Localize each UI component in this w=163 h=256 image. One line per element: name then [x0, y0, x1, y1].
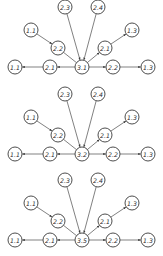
- node-label: 1.3: [127, 200, 137, 207]
- node-bottom-far-left: 1.1: [8, 233, 22, 247]
- network-diagram-2: 2.32.41.11.32.22.11.12.13.22.21.3: [8, 87, 155, 161]
- node-label: 2.1: [100, 45, 110, 52]
- node-bottom-far-right: 1.3: [141, 60, 155, 74]
- diagrams-root: 2.32.41.11.32.22.11.12.13.12.21.32.32.41…: [8, 0, 155, 247]
- node-upper-right: 1.3: [125, 110, 139, 124]
- node-label: 1.3: [143, 151, 153, 158]
- edge-top_right-to-center: [84, 101, 96, 147]
- node-label: 2.1: [100, 218, 110, 225]
- node-label: 2.3: [60, 4, 70, 11]
- node-bottom-left: 2.1: [43, 233, 57, 247]
- node-bottom-far-right: 1.3: [141, 147, 155, 161]
- node-mid-right: 2.1: [98, 128, 112, 142]
- node-label: 2.3: [60, 91, 70, 98]
- node-label: 2.1: [100, 132, 110, 139]
- node-label: 1.1: [26, 27, 36, 34]
- node-label: 1.3: [143, 237, 153, 244]
- node-center: 3.5: [75, 233, 89, 247]
- node-center: 3.2: [75, 147, 89, 161]
- edge-mid_right-to-upper_right: [111, 121, 126, 131]
- node-bottom-left: 2.1: [43, 147, 57, 161]
- edge-upper_left-to-mid_left: [37, 121, 52, 131]
- edge-mid_left-to-center: [63, 139, 76, 149]
- edge-center-to-mid_right: [87, 226, 99, 236]
- node-label: 2.2: [108, 237, 118, 244]
- node-label: 1.3: [127, 27, 137, 34]
- node-label: 2.1: [45, 237, 55, 244]
- node-label: 1.1: [26, 114, 36, 121]
- node-top-left: 2.3: [58, 0, 72, 14]
- node-label: 1.3: [127, 114, 137, 121]
- node-label: 1.3: [143, 64, 153, 71]
- node-label: 2.2: [53, 132, 63, 139]
- diagram-canvas: 2.32.41.11.32.22.11.12.13.12.21.32.32.41…: [0, 0, 163, 256]
- node-top-left: 2.3: [58, 173, 72, 187]
- node-top-left: 2.3: [58, 87, 72, 101]
- node-top-right: 2.4: [91, 0, 105, 14]
- node-label: 2.2: [108, 64, 118, 71]
- node-mid-right: 2.1: [98, 41, 112, 55]
- node-label: 3.2: [77, 151, 87, 158]
- edge-upper_left-to-mid_left: [37, 34, 52, 44]
- network-diagram-3: 2.32.41.11.32.22.11.12.13.52.21.3: [8, 173, 155, 247]
- node-bottom-left: 2.1: [43, 60, 57, 74]
- node-label: 1.1: [10, 151, 20, 158]
- node-bottom-right: 2.2: [106, 60, 120, 74]
- edge-mid_right-to-upper_right: [111, 207, 126, 217]
- node-bottom-far-left: 1.1: [8, 147, 22, 161]
- edge-center-to-mid_right: [87, 53, 99, 63]
- edge-center-to-mid_right: [87, 140, 99, 150]
- node-bottom-right: 2.2: [106, 147, 120, 161]
- node-label: 2.1: [45, 64, 55, 71]
- edge-top_right-to-center: [84, 187, 96, 233]
- node-label: 2.4: [93, 177, 103, 184]
- node-label: 2.2: [53, 45, 63, 52]
- network-diagram-1: 2.32.41.11.32.22.11.12.13.12.21.3: [8, 0, 155, 74]
- node-label: 3.1: [77, 64, 87, 71]
- node-label: 1.1: [10, 237, 20, 244]
- node-center: 3.1: [75, 60, 89, 74]
- node-upper-right: 1.3: [125, 196, 139, 210]
- node-bottom-right: 2.2: [106, 233, 120, 247]
- node-label: 2.4: [93, 91, 103, 98]
- node-top-right: 2.4: [91, 87, 105, 101]
- node-label: 2.3: [60, 177, 70, 184]
- node-upper-left: 1.1: [24, 23, 38, 37]
- node-upper-left: 1.1: [24, 196, 38, 210]
- node-label: 2.4: [93, 4, 103, 11]
- node-label: 2.2: [53, 218, 63, 225]
- node-label: 1.1: [26, 200, 36, 207]
- edge-top_right-to-center: [84, 14, 96, 60]
- node-mid-left: 2.2: [51, 41, 65, 55]
- edge-mid_left-to-center: [63, 225, 76, 235]
- edge-top_left-to-center: [67, 14, 80, 60]
- edge-mid_right-to-upper_right: [111, 34, 126, 44]
- edge-mid_left-to-center: [63, 52, 76, 62]
- node-upper-left: 1.1: [24, 110, 38, 124]
- node-mid-right: 2.1: [98, 214, 112, 228]
- node-top-right: 2.4: [91, 173, 105, 187]
- edge-upper_left-to-mid_left: [37, 207, 52, 217]
- node-bottom-far-left: 1.1: [8, 60, 22, 74]
- node-upper-right: 1.3: [125, 23, 139, 37]
- node-mid-left: 2.2: [51, 214, 65, 228]
- edge-top_left-to-center: [67, 101, 80, 147]
- node-bottom-far-right: 1.3: [141, 233, 155, 247]
- node-label: 2.2: [108, 151, 118, 158]
- edge-top_left-to-center: [67, 187, 80, 233]
- node-label: 2.1: [45, 151, 55, 158]
- node-label: 3.5: [77, 237, 87, 244]
- node-label: 1.1: [10, 64, 20, 71]
- node-mid-left: 2.2: [51, 128, 65, 142]
